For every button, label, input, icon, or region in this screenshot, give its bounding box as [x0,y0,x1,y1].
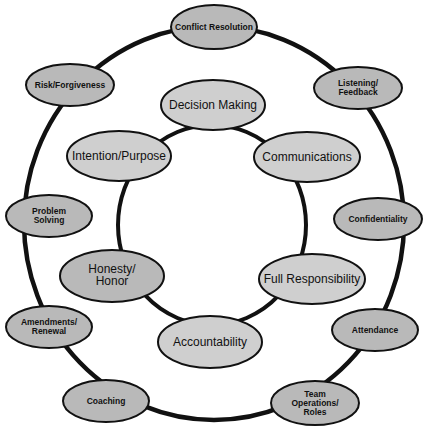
svg-text:Coaching: Coaching [87,396,126,406]
inner-node-intention-purpose: Intention/Purpose [67,131,171,181]
node-label: Honor [96,274,129,288]
node-label: Roles [303,407,326,417]
outer-node-attendance: Attendance [332,309,418,351]
svg-text:Full Responsibility: Full Responsibility [264,272,361,286]
node-label: Coaching [87,396,126,406]
node-label: Risk/Forgiveness [35,80,106,90]
svg-text:Attendance: Attendance [352,325,399,335]
outer-node-team-operations-roles: TeamOperations/Roles [271,381,359,425]
team-values-diagram: Conflict Resolution Listening/Feedback C… [0,0,425,428]
svg-text:Accountability: Accountability [173,335,247,349]
svg-text:Risk/Forgiveness: Risk/Forgiveness [35,80,106,90]
node-label: Communications [262,150,351,164]
outer-node-listening-feedback: Listening/Feedback [314,67,402,109]
outer-node-problem-solving: ProblemSolving [6,195,92,237]
svg-text:ProblemSolving: ProblemSolving [32,206,66,225]
node-label: Intention/Purpose [72,149,166,163]
node-label: Full Responsibility [264,272,361,286]
outer-node-coaching: Coaching [63,380,149,422]
svg-text:Conflict Resolution: Conflict Resolution [175,22,253,32]
node-label: Conflict Resolution [175,22,253,32]
node-label: Accountability [173,335,247,349]
node-label: Decision Making [169,98,257,112]
outer-node-conflict-resolution: Conflict Resolution [171,5,257,49]
inner-node-decision-making: Decision Making [161,80,265,130]
node-label: Solving [34,215,65,225]
inner-node-accountability: Accountability [158,316,262,368]
svg-text:Decision Making: Decision Making [169,98,257,112]
svg-text:Confidentiality: Confidentiality [348,214,407,224]
inner-node-honesty-honor: Honesty/Honor [60,250,164,302]
svg-text:Intention/Purpose: Intention/Purpose [72,149,166,163]
node-label: Confidentiality [348,214,407,224]
node-label: Attendance [352,325,399,335]
svg-text:Listening/Feedback: Listening/Feedback [338,78,379,97]
node-label: Feedback [338,87,377,97]
node-label: Renewal [32,326,67,336]
inner-node-communications: Communications [254,132,360,182]
outer-node-risk-forgiveness: Risk/Forgiveness [26,64,114,106]
outer-node-amendments-renewal: Amendments/Renewal [6,306,92,348]
inner-node-full-responsibility: Full Responsibility [259,254,365,304]
outer-node-confidentiality: Confidentiality [334,198,422,240]
svg-text:Communications: Communications [262,150,351,164]
